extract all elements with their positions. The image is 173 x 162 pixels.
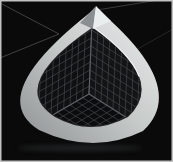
floor-shadow	[18, 145, 142, 151]
render-viewport	[0, 0, 173, 162]
csg-render-canvas	[0, 0, 173, 162]
